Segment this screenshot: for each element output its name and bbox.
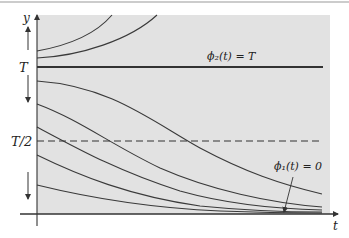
y-axis-label: y <box>22 11 30 25</box>
phi2-annotation: ϕ₂(t) = T <box>207 50 257 63</box>
phi1-annotation: ϕ₁(t) = 0 <box>274 160 322 173</box>
phase-line-diagram: y t T T/2 ϕ₂(t) = T ϕ₁(t) = 0 <box>0 0 349 238</box>
t-axis-label: t <box>333 219 338 233</box>
tick-label-T: T <box>19 60 29 75</box>
tick-label-T-half: T/2 <box>11 134 32 149</box>
